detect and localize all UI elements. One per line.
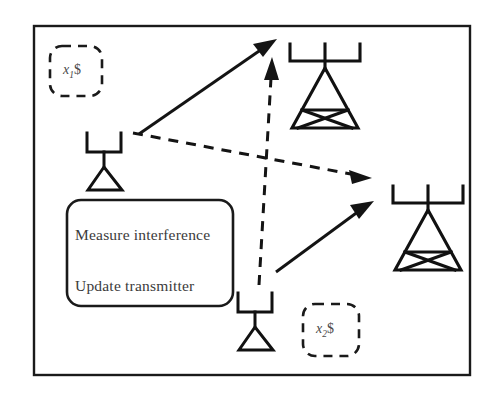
algorithm-step-update: Update transmitter xyxy=(75,277,194,295)
interference-arrowhead-1 xyxy=(349,170,372,184)
signal-line-1 xyxy=(139,49,262,134)
variable-label-x1-suffix: $ xyxy=(74,62,81,77)
interference-link-antenna1-tower2 xyxy=(133,133,372,184)
interference-line-2 xyxy=(259,78,271,285)
receiver-antenna-1 xyxy=(87,133,122,190)
signal-link-antenna1-tower1 xyxy=(139,39,277,134)
antenna-2-base xyxy=(239,327,273,350)
interference-arrowhead-2 xyxy=(264,57,279,80)
interference-link-antenna2-tower1 xyxy=(259,57,279,285)
variable-label-x2: x2$ xyxy=(316,321,334,339)
algorithm-step-measure: Measure interference xyxy=(75,226,210,244)
receiver-antenna-2 xyxy=(238,293,273,350)
diagram-canvas: Measure interference Update transmitter … xyxy=(0,0,503,409)
variable-label-x1: x1$ xyxy=(63,62,81,80)
antenna-1-base xyxy=(88,167,122,190)
interference-line-1 xyxy=(133,133,356,175)
signal-line-2 xyxy=(276,211,359,272)
antenna-2-bracket xyxy=(238,293,272,312)
signal-link-antenna2-tower2 xyxy=(276,201,374,272)
antenna-1-bracket xyxy=(87,133,121,152)
transmission-tower-2 xyxy=(393,186,463,270)
transmission-tower-1 xyxy=(290,44,360,128)
variable-label-x2-suffix: $ xyxy=(327,321,334,336)
